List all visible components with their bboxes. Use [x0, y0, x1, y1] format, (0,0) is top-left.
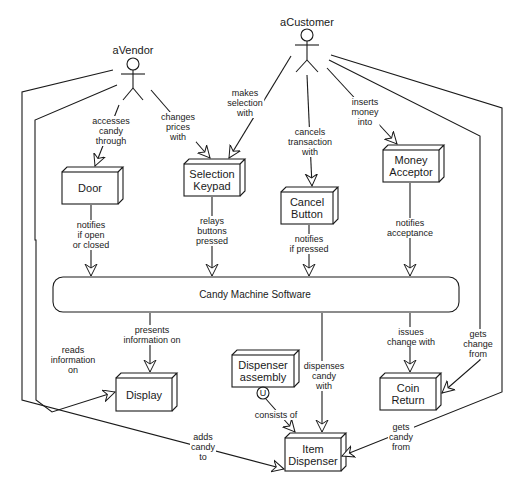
coin-return-label: Coin Return: [391, 382, 424, 406]
edge-label-customer-cancel: cancels transaction with: [287, 127, 333, 157]
edge-label-customer-keypad: makes selection with: [226, 88, 264, 118]
edge-label-vendor-keypad: changes prices with: [160, 112, 196, 142]
door-label: Door: [78, 182, 102, 194]
keypad-label: Selection Keypad: [189, 168, 234, 192]
edge-label-money-software: notifies acceptance: [386, 218, 434, 238]
software-label: Candy Machine Software: [199, 289, 311, 300]
edge-label-vendor-display: reads information on: [50, 345, 97, 375]
money-acceptor-label: Money Acceptor: [389, 154, 432, 178]
vendor-actor-label: aVendor: [113, 44, 154, 56]
uses-marker-label: U: [260, 387, 267, 399]
edge-label-vendor-door: accesses candy through: [91, 116, 131, 146]
edge-label-customer-coin: gets change from: [462, 329, 494, 359]
edge-label-cancel-software: notifies if pressed: [288, 234, 329, 254]
edge-label-software-item: dispenses candy with: [303, 361, 346, 391]
edge-label-software-coin: issues change with: [386, 327, 436, 347]
customer-actor-label: aCustomer: [280, 16, 334, 28]
display-label: Display: [126, 389, 162, 401]
edge-label-customer-item: gets candy from: [388, 422, 414, 452]
edge-label-assembly-item: consists of: [254, 410, 299, 420]
dispenser-assembly-label: Dispenser assembly: [238, 359, 288, 383]
vendor-actor-icon: [121, 58, 145, 100]
item-dispenser-label: Item Dispenser: [288, 443, 338, 467]
edge-label-vendor-item: adds candy to: [190, 432, 216, 462]
edge-label-software-display: presents information on: [122, 325, 181, 345]
edge-label-door-software: notifies if open or closed: [72, 220, 111, 250]
customer-actor-icon: [295, 29, 319, 72]
cancel-button-label: Cancel Button: [290, 196, 324, 220]
edge-label-customer-money: inserts money into: [350, 97, 379, 127]
edge-label-keypad-software: relays buttons pressed: [195, 216, 229, 246]
